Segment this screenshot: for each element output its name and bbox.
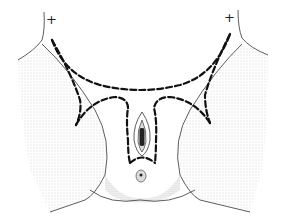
perineal-incision (130, 158, 155, 164)
anatomical-illustration (0, 0, 285, 224)
upper-incision-arc (52, 34, 230, 90)
left-plus-marker: + (46, 13, 57, 26)
right-thigh (178, 10, 268, 212)
anus (136, 170, 146, 182)
left-thigh (18, 12, 107, 212)
right-plus-marker: + (224, 11, 235, 24)
vulva (134, 112, 150, 156)
